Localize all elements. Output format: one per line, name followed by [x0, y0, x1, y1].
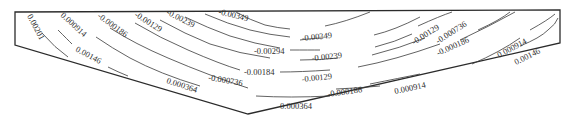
contour-label: -0.00129: [133, 9, 164, 34]
contour-label: 0.000364: [165, 75, 199, 95]
contour-label: -0.00239: [311, 50, 342, 63]
contour-line: [280, 44, 440, 72]
contour-label: 0.000914: [393, 79, 427, 96]
contour-label: -0.00239: [165, 7, 197, 30]
contour-line: [110, 28, 330, 97]
contour-label: -0.000736: [208, 72, 244, 88]
contour-label: -0.00349: [301, 30, 332, 43]
contour-line: [135, 23, 240, 70]
contour-line: [96, 37, 200, 86]
contour-line: [325, 12, 370, 26]
contour-label: -0.00294: [254, 46, 285, 56]
contour-labels: 0.00201 0.000914 -0.000186 -0.00129 -0.0…: [25, 6, 541, 111]
contour-line: [185, 17, 280, 48]
contour-label: -0.000186: [96, 11, 130, 39]
contour-line: [478, 12, 555, 30]
contour-label: -0.00184: [244, 67, 275, 77]
contour-label: 0.000364: [280, 101, 313, 111]
contour-label: 0.00201: [25, 12, 47, 41]
contour-label: -0.000186: [327, 84, 363, 99]
contour-label: -0.00129: [301, 71, 332, 84]
contour-plot: 0.00201 0.000914 -0.000186 -0.00129 -0.0…: [0, 0, 574, 124]
contour-label: 0.00146: [74, 44, 103, 66]
